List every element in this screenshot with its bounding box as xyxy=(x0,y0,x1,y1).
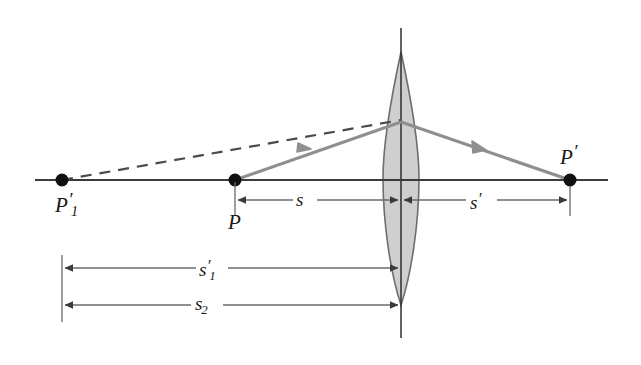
point-marker-p1-prime xyxy=(56,174,69,187)
label-dimension-s: s xyxy=(296,190,303,209)
virtual-ray-dashed xyxy=(62,120,401,180)
label-p1-prime-base: P xyxy=(55,193,68,217)
label-s1-prime-base: s xyxy=(199,259,206,280)
label-p1-prime: P′1 xyxy=(55,190,78,219)
label-dimension-s-prime: s′ xyxy=(470,190,482,212)
label-s-prime-mark: ′ xyxy=(478,188,482,208)
dimension-extension-lines xyxy=(62,182,570,322)
refracted-ray xyxy=(401,122,570,180)
label-p1-prime-subscript: 1 xyxy=(71,203,78,219)
label-p-base: P xyxy=(228,210,241,234)
label-s1-prime-subscript: 1 xyxy=(209,268,215,283)
label-dimension-s2: s2 xyxy=(195,294,208,317)
label-s-base: s xyxy=(296,189,303,210)
label-p-prime-mark: ′ xyxy=(573,141,577,162)
refracted-ray-arrowhead xyxy=(472,141,486,153)
label-dimension-s1-prime: s′1 xyxy=(199,257,216,283)
label-s2-subscript: 2 xyxy=(201,302,207,317)
incident-ray-arrowhead xyxy=(297,143,311,152)
label-p-prime: P′ xyxy=(560,142,577,168)
incident-ray xyxy=(235,122,401,180)
ray-diagram-canvas xyxy=(0,0,641,365)
label-p: P xyxy=(228,212,241,233)
optics-figure: P′1 P P′ s s′ s′1 s2 xyxy=(0,0,641,365)
incident-ray-line xyxy=(235,122,401,180)
label-s-prime-base: s xyxy=(470,192,477,213)
refracted-ray-line xyxy=(401,122,570,180)
point-marker-p-prime xyxy=(564,174,577,187)
label-p-prime-base: P xyxy=(560,145,573,169)
